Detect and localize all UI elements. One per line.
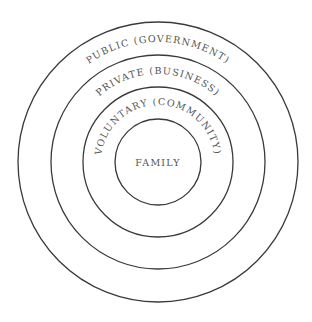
label-public: PUBLIC (GOVERNMENT) [84, 33, 233, 66]
label-voluntary: VOLUNTARY (COMMUNITY) [92, 96, 223, 157]
label-family: FAMILY [135, 157, 180, 168]
label-private: PRIVATE (BUSINESS) [93, 65, 222, 98]
concentric-diagram: PUBLIC (GOVERNMENT) PRIVATE (BUSINESS) V… [0, 0, 312, 322]
